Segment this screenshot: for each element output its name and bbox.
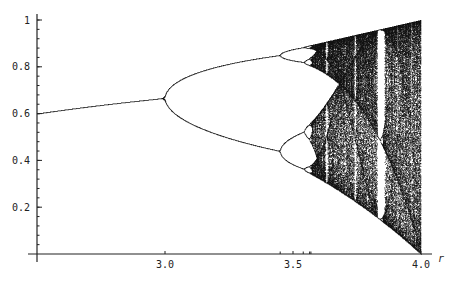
x-tick-label: 4.0: [412, 259, 430, 270]
y-tick-label: 0.8: [12, 61, 30, 72]
bifurcation-chart: 0.20.40.60.81 3.03.54.0 r: [0, 0, 457, 282]
x-tick-label: 3.5: [284, 259, 302, 270]
attractor-scatter: [37, 20, 422, 255]
x-tick-label: 3.0: [156, 259, 174, 270]
attractor-points: [37, 20, 422, 255]
y-tick-label: 1: [24, 15, 30, 26]
y-tick-label: 0.6: [12, 108, 30, 119]
x-axis-label: r: [438, 253, 444, 264]
axes: 0.20.40.60.81 3.03.54.0 r: [12, 14, 444, 270]
y-tick-label: 0.2: [12, 202, 30, 213]
y-tick-label: 0.4: [12, 155, 30, 166]
